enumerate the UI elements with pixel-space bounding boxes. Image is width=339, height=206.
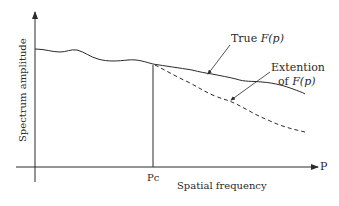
extension-label-line2: of F(p) (278, 75, 315, 88)
cutoff-label: Pc (147, 172, 160, 183)
true-curve (35, 49, 305, 94)
true-curve-leader (208, 45, 230, 74)
x-axis-label: Spatial frequency (177, 180, 267, 191)
x-axis-end-label: P (320, 160, 328, 173)
true-curve-label: True F(p) (231, 32, 284, 45)
extension-label-line1: Extention (271, 61, 325, 74)
diagram-canvas: True F(p) Extention of F(p) Pc P Spatial… (0, 0, 339, 206)
spectrum-diagram: True F(p) Extention of F(p) Pc P Spatial… (0, 0, 339, 206)
y-axis-label: Spectrum amplitude (17, 38, 28, 142)
extension-leader (231, 72, 270, 100)
